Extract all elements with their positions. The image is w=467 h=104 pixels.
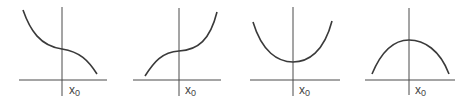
- x0-label: x0: [415, 83, 426, 98]
- panel-decreasing-inflection: x0: [19, 7, 107, 98]
- panel-local-maximum: x0: [365, 8, 455, 98]
- x0-label: x0: [69, 83, 80, 98]
- function-curve: [23, 10, 97, 74]
- panel-local-minimum: x0: [250, 7, 340, 98]
- x0-label: x0: [185, 83, 196, 98]
- function-curve: [372, 40, 449, 74]
- panel-increasing-inflection: x0: [133, 8, 221, 98]
- function-curve: [145, 12, 217, 76]
- x0-label: x0: [299, 83, 310, 98]
- critical-points-figure: x0 x0 x0 x0: [0, 0, 467, 104]
